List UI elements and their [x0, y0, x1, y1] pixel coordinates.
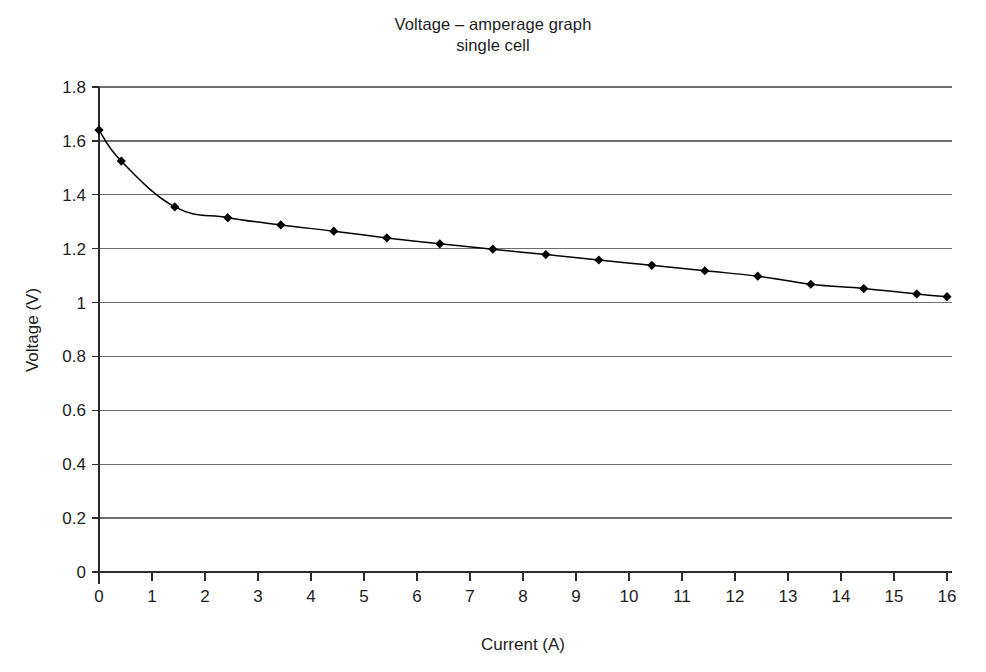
data-point-marker: [594, 255, 603, 264]
x-tick-label: 8: [518, 587, 527, 606]
data-point-marker: [488, 245, 497, 254]
x-tick-label: 13: [779, 587, 798, 606]
y-tick-label: 1.6: [62, 132, 86, 151]
data-point-marker: [94, 126, 103, 135]
x-tick-label: 7: [465, 587, 474, 606]
y-tick-label: 0.8: [62, 347, 86, 366]
y-tick-label: 1.8: [62, 78, 86, 97]
data-point-marker: [700, 266, 709, 275]
y-tick-label: 0.4: [62, 455, 86, 474]
x-tick-label: 0: [94, 587, 103, 606]
data-point-marker: [223, 213, 232, 222]
grid-lines: [99, 87, 952, 572]
chart-container: Voltage – amperage graph single cell 00.…: [0, 0, 986, 672]
data-point-marker: [541, 250, 550, 259]
x-tick-label: 11: [673, 587, 691, 606]
chart-title-line1: Voltage – amperage graph: [0, 14, 986, 35]
x-tick-label: 5: [359, 587, 368, 606]
x-tick-label: 9: [571, 587, 580, 606]
x-tick-label: 14: [832, 587, 851, 606]
plot-area: 00.20.40.60.811.21.41.61.8 0123456789101…: [0, 0, 986, 672]
data-point-marker: [382, 233, 391, 242]
x-tick-label: 16: [938, 587, 957, 606]
data-point-marker: [647, 261, 656, 270]
x-axis-title: Current (A): [481, 635, 565, 654]
x-tick-label: 10: [620, 587, 639, 606]
y-axis-title: Voltage (V): [23, 288, 42, 372]
data-point-marker: [276, 220, 285, 229]
x-tick-label: 3: [253, 587, 262, 606]
y-tick-label: 0.6: [62, 401, 86, 420]
x-tick-label: 2: [200, 587, 209, 606]
series-line: [99, 130, 947, 297]
x-tick-label: 1: [147, 587, 156, 606]
data-point-marker: [912, 289, 921, 298]
x-tick-label: 6: [412, 587, 421, 606]
data-point-marker: [753, 272, 762, 281]
data-point-marker: [806, 280, 815, 289]
chart-title-line2: single cell: [0, 35, 986, 56]
x-axis: 012345678910111213141516: [94, 572, 956, 606]
y-tick-label: 1: [77, 294, 86, 313]
x-tick-label: 4: [306, 587, 315, 606]
data-point-marker: [859, 284, 868, 293]
data-point-marker: [329, 227, 338, 236]
y-tick-label: 0.2: [62, 509, 86, 528]
x-tick-label: 12: [726, 587, 745, 606]
data-series: [94, 126, 951, 302]
y-tick-label: 1.2: [62, 240, 86, 259]
data-point-marker: [435, 239, 444, 248]
y-tick-label: 1.4: [62, 186, 86, 205]
y-axis: 00.20.40.60.811.21.41.61.8: [62, 78, 99, 584]
chart-title: Voltage – amperage graph single cell: [0, 14, 986, 56]
data-point-marker: [942, 292, 951, 301]
y-tick-label: 0: [77, 563, 86, 582]
data-point-marker: [170, 202, 179, 211]
x-tick-label: 15: [885, 587, 904, 606]
